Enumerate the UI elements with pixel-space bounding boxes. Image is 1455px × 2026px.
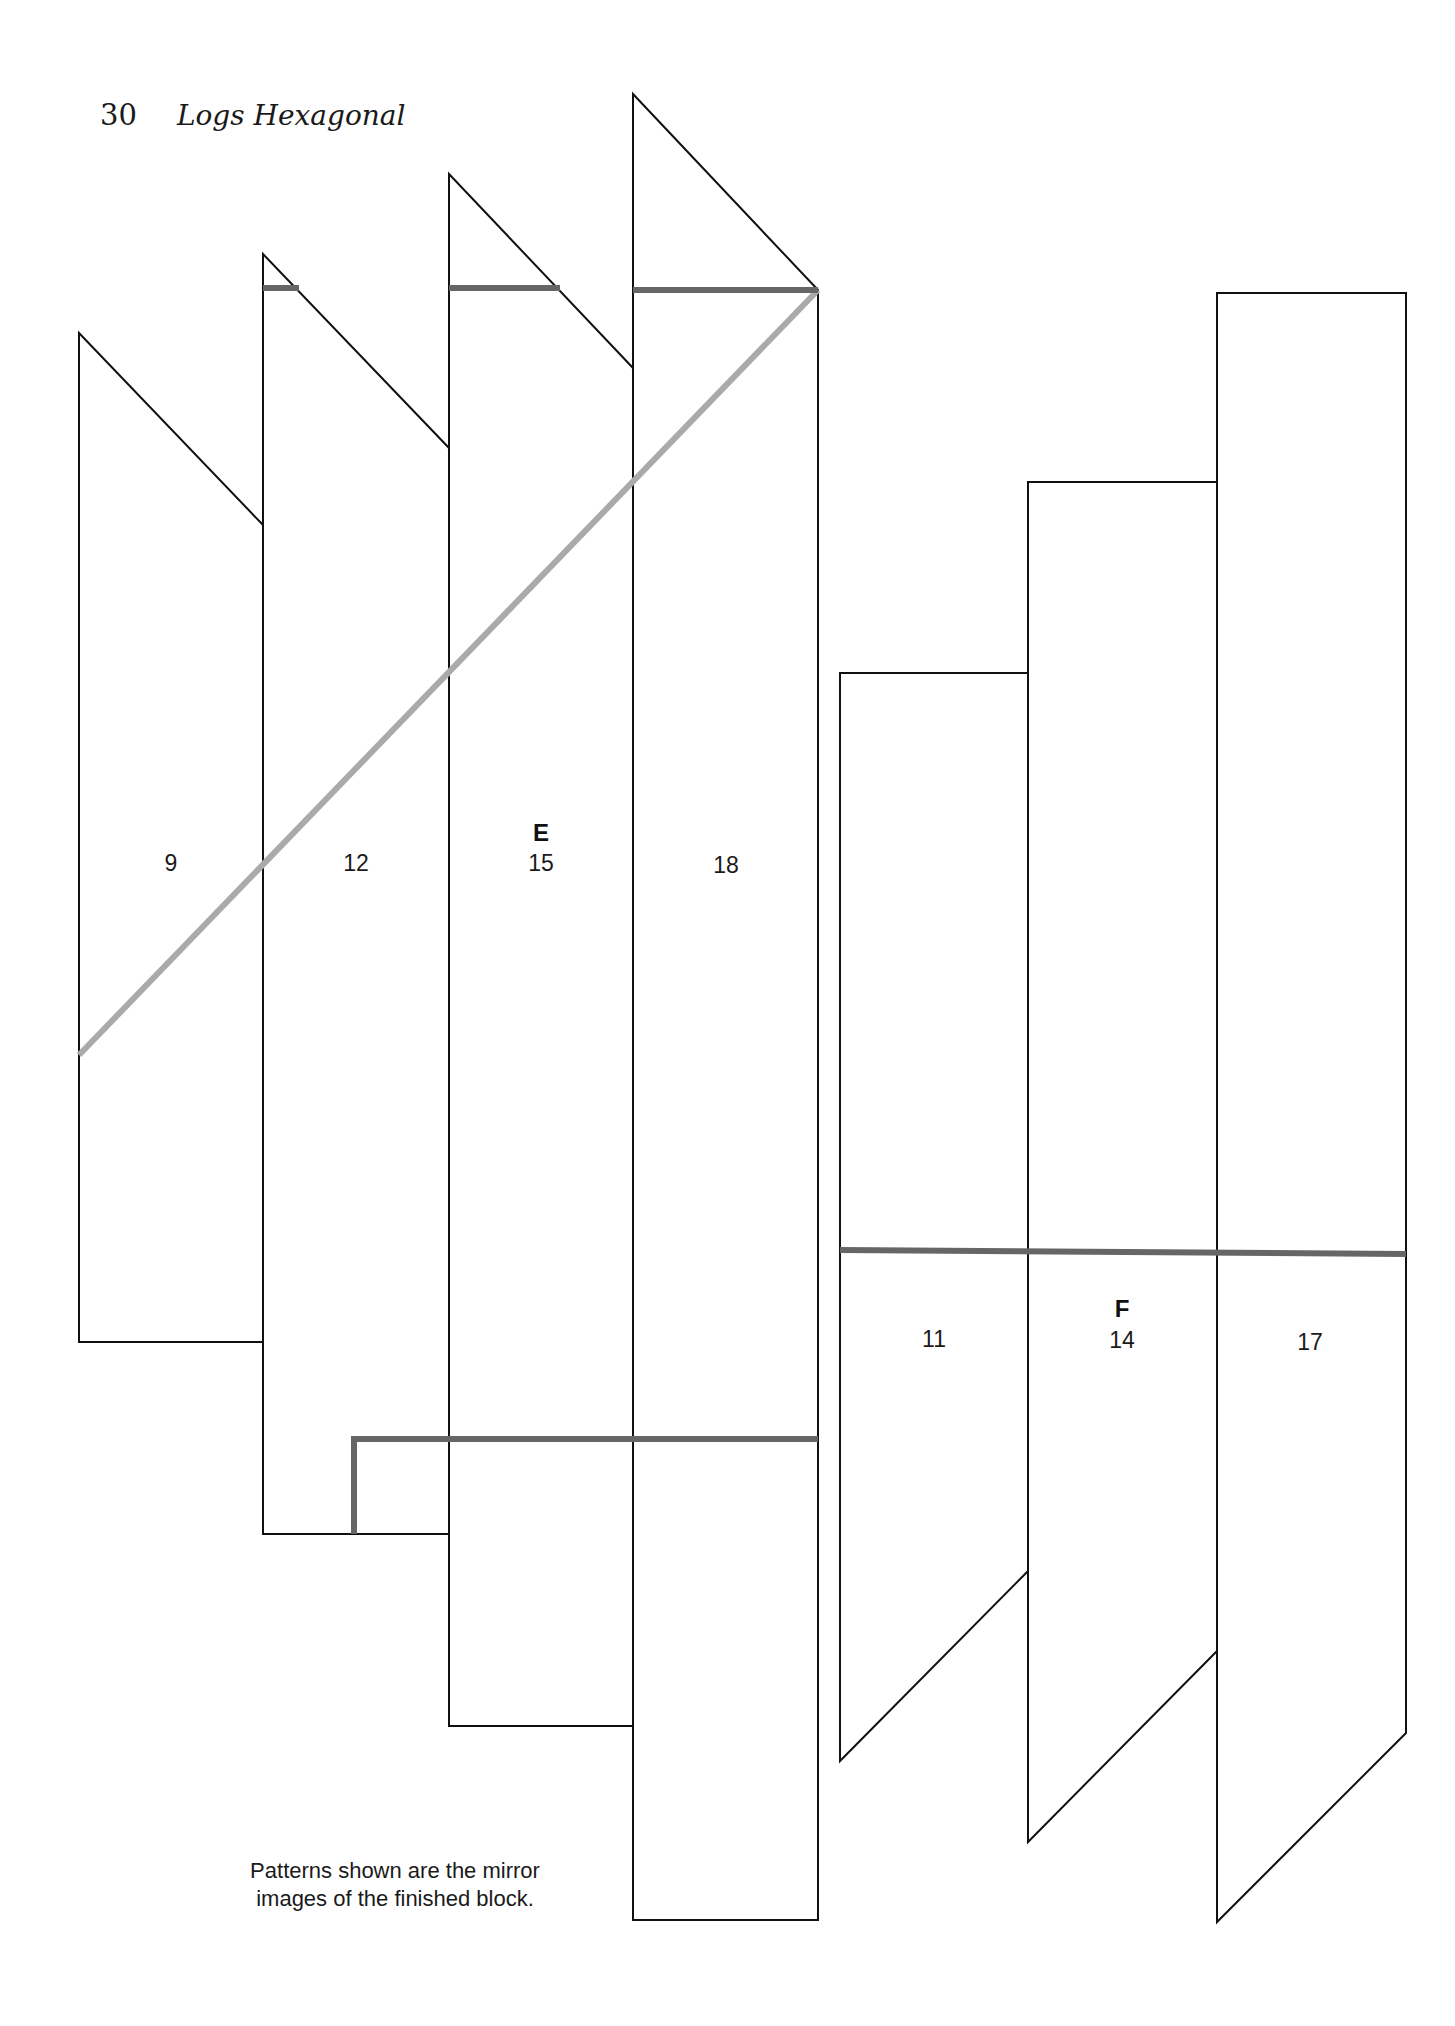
section-e — [79, 94, 818, 1920]
label-18: 18 — [713, 852, 739, 878]
piece-15 — [449, 174, 633, 1726]
bottom-seam-line — [354, 1439, 818, 1534]
label-12: 12 — [343, 850, 369, 876]
note-line-1: Patterns shown are the mirror — [200, 1857, 590, 1885]
piece-14 — [1028, 482, 1217, 1842]
middle-seam-line — [840, 1250, 1406, 1254]
mirror-image-note: Patterns shown are the mirror images of … — [200, 1857, 590, 1913]
section-label-e: E — [533, 819, 549, 846]
label-15: 15 — [528, 850, 554, 876]
label-11: 11 — [922, 1326, 946, 1352]
piece-18 — [633, 94, 818, 1920]
label-14: 14 — [1109, 1327, 1135, 1353]
piece-11 — [840, 673, 1028, 1761]
section-label-f: F — [1115, 1295, 1130, 1322]
label-9: 9 — [165, 850, 178, 876]
section-f — [840, 293, 1406, 1922]
pattern-diagram: 9 12 E 15 18 11 F 14 17 — [0, 0, 1455, 2026]
note-line-2: images of the finished block. — [200, 1885, 590, 1913]
pattern-page: 30 Logs Hexagonal 9 12 E 15 18 11 F — [0, 0, 1455, 2026]
piece-9 — [79, 333, 263, 1342]
label-17: 17 — [1297, 1329, 1323, 1355]
piece-12 — [263, 254, 449, 1534]
piece-17 — [1217, 293, 1406, 1922]
